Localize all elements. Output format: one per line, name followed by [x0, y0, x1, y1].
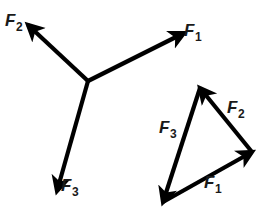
vector-label-f1-triangle: F1 — [204, 174, 221, 191]
vector-label-base: F — [61, 176, 71, 195]
vector-label-base: F — [159, 118, 169, 137]
vector-label-base: F — [184, 21, 194, 40]
vector-arrow-f2-concurrent — [28, 25, 88, 81]
vector-label-subscript: 1 — [215, 182, 222, 196]
vector-label-base: F — [204, 173, 214, 192]
vector-label-base: F — [5, 11, 15, 30]
vector-label-base: F — [227, 98, 237, 117]
vector-label-subscript: 3 — [72, 185, 79, 199]
vector-label-f1-concurrent: F1 — [184, 22, 201, 39]
vector-label-subscript: 3 — [170, 127, 177, 141]
vector-label-subscript: 2 — [16, 20, 23, 34]
vector-label-subscript: 1 — [195, 30, 202, 44]
vector-label-f2-triangle: F2 — [227, 99, 244, 116]
vector-arrow-f1-concurrent — [88, 33, 184, 81]
force-vector-diagram: F2 F1 F3 F3 F2 F1 — [0, 0, 270, 212]
vector-label-f3-concurrent: F3 — [61, 177, 78, 194]
vector-arrow-f3-concurrent — [57, 81, 88, 191]
vector-label-subscript: 2 — [238, 107, 245, 121]
vector-label-f3-triangle: F3 — [159, 119, 176, 136]
vector-label-f2-concurrent: F2 — [5, 12, 22, 29]
concurrent-force-vectors — [28, 25, 184, 191]
